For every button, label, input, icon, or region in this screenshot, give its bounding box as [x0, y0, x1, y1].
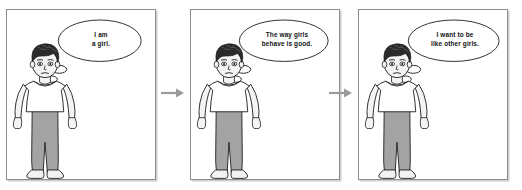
- thought-bubble-3: [399, 20, 499, 82]
- boy-figure-3: [365, 44, 428, 179]
- comic-panel-3: I want to be like other girls.: [358, 9, 508, 180]
- right-arrow-icon: [160, 86, 185, 100]
- comic-strip: I am a girl.: [0, 0, 522, 190]
- comic-panel-2: The way girls behave is good.: [190, 9, 340, 180]
- comic-panel-1: I am a girl.: [6, 9, 156, 180]
- boy-figure-1: [13, 44, 76, 179]
- thought-bubble-2: [229, 20, 328, 82]
- thought-bubble-1: [45, 20, 141, 82]
- boy-figure-2: [197, 44, 260, 179]
- panel-2-artwork: [191, 10, 339, 179]
- right-arrow-icon: [328, 86, 353, 100]
- panel-1-artwork: [7, 10, 155, 179]
- panel-3-artwork: [359, 10, 507, 179]
